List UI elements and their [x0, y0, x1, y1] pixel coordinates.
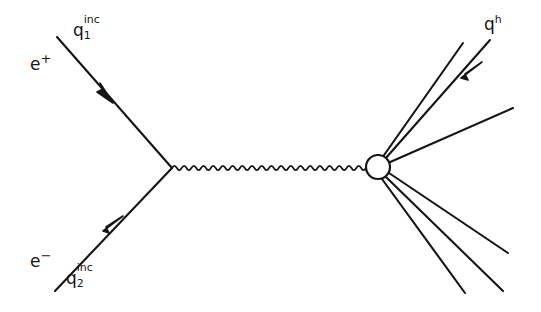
label-qh-superscript: h	[495, 13, 502, 26]
label-q1-base: q	[73, 20, 84, 40]
label-q1-superscript: inc	[84, 14, 100, 25]
positron-incoming-line	[57, 37, 172, 168]
virtual-photon-wavy-line	[172, 166, 366, 170]
label-q2-base: q	[66, 268, 77, 288]
label-incoming-momentum-2: q inc 2	[66, 270, 77, 287]
feynman-diagram-figure: e+ q inc 1 e− q inc 2 qh	[0, 0, 541, 312]
label-electron: e−	[30, 249, 51, 270]
label-positron-superscript: +	[40, 51, 51, 66]
label-electron-base: e	[30, 251, 40, 271]
label-positron: e+	[30, 52, 51, 73]
hadron-direction-arrowhead	[461, 62, 482, 80]
label-electron-superscript: −	[40, 248, 51, 263]
label-hadron-momentum: qh	[484, 14, 502, 33]
label-qh-base: q	[484, 14, 495, 34]
label-incoming-momentum-1: q inc 1	[73, 22, 84, 39]
outgoing-jet-line	[386, 177, 503, 291]
label-q2-superscript: inc	[77, 262, 93, 273]
label-q2-subscript: 2	[77, 278, 84, 289]
label-q1-subscript: 1	[84, 30, 91, 41]
hadronisation-blob	[366, 155, 390, 179]
label-positron-base: e	[30, 54, 40, 74]
outgoing-jet-line	[382, 43, 463, 158]
